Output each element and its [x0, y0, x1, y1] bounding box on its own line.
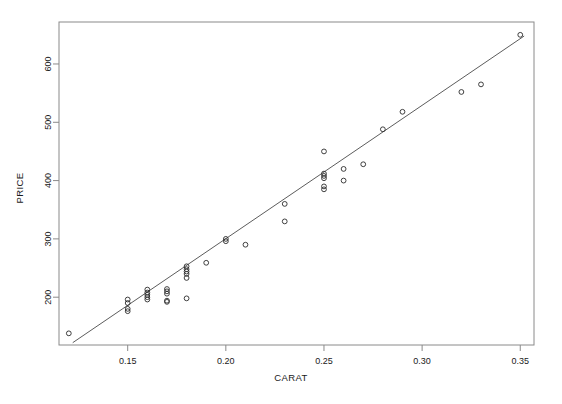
x-tick-label: 0.15: [119, 356, 137, 366]
y-tick-label: 200: [43, 290, 53, 305]
x-axis-title: CARAT: [274, 372, 308, 383]
y-tick-label: 500: [43, 115, 53, 130]
y-tick-label: 300: [43, 231, 53, 246]
y-axis-title: PRICE: [14, 172, 25, 203]
x-tick-label: 0.35: [511, 356, 529, 366]
y-tick-label: 400: [43, 173, 53, 188]
figure-background: [0, 0, 562, 404]
x-tick-label: 0.30: [413, 356, 431, 366]
x-tick-label: 0.20: [217, 356, 235, 366]
scatter-plot-figure: 0.150.200.250.300.35 200300400500600 CAR…: [0, 0, 562, 404]
x-tick-label: 0.25: [315, 356, 333, 366]
plot-canvas: 0.150.200.250.300.35 200300400500600 CAR…: [0, 0, 562, 404]
y-tick-label: 600: [43, 56, 53, 71]
